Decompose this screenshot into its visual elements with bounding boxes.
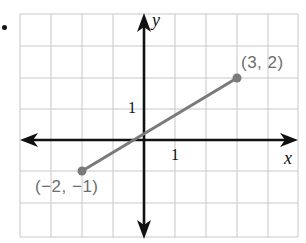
- x-axis: [20, 133, 298, 147]
- y-axis: [137, 13, 151, 239]
- y-tick-label: 1: [128, 99, 136, 117]
- y-axis-label: y: [152, 10, 160, 31]
- point-a-label: (3, 2): [241, 53, 284, 73]
- line-segment: [78, 74, 242, 176]
- point-b-dot: [78, 167, 87, 176]
- point-b-label: (−2, −1): [35, 177, 99, 197]
- point-a-dot: [233, 74, 242, 83]
- coordinate-plane: [0, 0, 306, 243]
- x-axis-label: x: [284, 148, 292, 169]
- x-tick-label: 1: [171, 146, 179, 164]
